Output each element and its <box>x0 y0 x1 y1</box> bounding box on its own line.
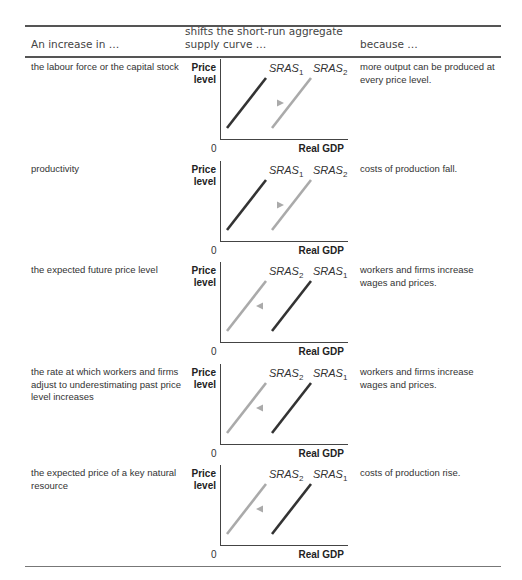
header-col2: shifts the short-run aggregate supply cu… <box>185 25 345 51</box>
right-curve-label: SRAS1 <box>313 265 347 280</box>
left-curve-label: SRAS2 <box>269 265 303 280</box>
left-curve-label: SRAS1 <box>269 164 303 179</box>
x-axis-label: Real GDP <box>298 346 344 357</box>
cause-text: the expected future price level <box>31 264 181 277</box>
shift-arrow-icon <box>256 303 284 310</box>
sras-shift-chart: Price level SRAS2 SRAS1 <box>180 463 355 563</box>
bottom-rule <box>25 566 501 567</box>
table-row: productivity Price level <box>0 159 522 261</box>
table-row: the rate at which workers and firms adju… <box>0 362 522 464</box>
reason-text: workers and firms increase wages and pri… <box>360 264 500 289</box>
reason-text: costs of production rise. <box>360 467 500 480</box>
x-axis-label: Real GDP <box>298 245 344 256</box>
reason-text: costs of production fall. <box>360 163 500 176</box>
origin-label: 0 <box>211 245 217 256</box>
origin-label: 0 <box>211 549 217 560</box>
x-axis-label: Real GDP <box>298 549 344 560</box>
left-curve-label: SRAS2 <box>269 367 303 382</box>
origin-label: 0 <box>211 346 217 357</box>
reason-text: more output can be produced at every pri… <box>360 61 500 86</box>
table-row: the expected price of a key natural reso… <box>0 463 522 565</box>
right-curve-label: SRAS2 <box>313 164 347 179</box>
cause-text: productivity <box>31 163 181 176</box>
header-col3: because … <box>360 38 418 51</box>
shift-arrow-icon <box>256 405 284 412</box>
shift-arrow-icon <box>256 506 284 513</box>
header-col1: An increase in … <box>31 38 119 51</box>
reason-text: workers and firms increase wages and pri… <box>360 366 500 391</box>
x-axis-label: Real GDP <box>298 143 344 154</box>
sras-shift-chart: Price level SRAS2 SRAS1 <box>180 362 355 462</box>
sras-shift-chart: Price level SRAS2 SRAS1 <box>180 260 355 360</box>
right-curve-label: SRAS1 <box>313 468 347 483</box>
cause-text: the labour force or the capital stock <box>31 61 181 74</box>
shift-arrow-icon <box>254 202 284 209</box>
table-row: the labour force or the capital stock Pr… <box>0 57 522 159</box>
cause-text: the expected price of a key natural reso… <box>31 467 181 492</box>
cause-text: the rate at which workers and firms adju… <box>31 366 181 404</box>
left-curve-label: SRAS1 <box>269 62 303 77</box>
table-row: the expected future price level Price le… <box>0 260 522 362</box>
right-curve-label: SRAS1 <box>313 367 347 382</box>
left-curve-label: SRAS2 <box>269 468 303 483</box>
x-axis-label: Real GDP <box>298 448 344 459</box>
origin-label: 0 <box>211 143 217 154</box>
shift-arrow-icon <box>254 100 284 107</box>
sras-shift-chart: Price level SRAS1 SRAS2 <box>180 159 355 259</box>
sras-shift-chart: Price level SRAS1 SRAS2 <box>180 57 355 157</box>
origin-label: 0 <box>211 448 217 459</box>
right-curve-label: SRAS2 <box>313 62 347 77</box>
